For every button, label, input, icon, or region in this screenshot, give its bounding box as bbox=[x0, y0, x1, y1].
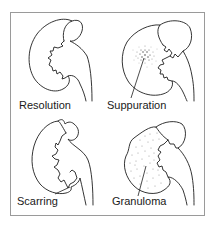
panel-granuloma: Granuloma bbox=[112, 122, 194, 207]
abscess-dots bbox=[133, 46, 158, 68]
leader-line bbox=[55, 187, 70, 194]
label-suppuration: Suppuration bbox=[107, 99, 166, 111]
kidney-outline bbox=[32, 120, 93, 205]
diagram-frame bbox=[11, 13, 205, 216]
label-granuloma: Granuloma bbox=[112, 195, 167, 207]
panel-resolution: Resolution bbox=[19, 19, 92, 111]
leader-line bbox=[131, 58, 144, 98]
renal-pelvis bbox=[158, 45, 183, 81]
kidney-outline bbox=[122, 21, 194, 101]
label-resolution: Resolution bbox=[19, 99, 71, 111]
panel-suppuration: Suppuration bbox=[107, 21, 194, 111]
panel-scarring: Scarring bbox=[17, 120, 93, 207]
kidney-outcomes-diagram: Resolution bbox=[0, 0, 215, 225]
kidney-outline bbox=[29, 19, 92, 101]
kidney-outline bbox=[124, 122, 194, 205]
renal-pelvis bbox=[52, 133, 77, 188]
label-scarring: Scarring bbox=[17, 195, 58, 207]
renal-pelvis bbox=[157, 140, 178, 177]
granuloma-stipple bbox=[130, 133, 162, 189]
renal-pelvis bbox=[48, 41, 68, 79]
